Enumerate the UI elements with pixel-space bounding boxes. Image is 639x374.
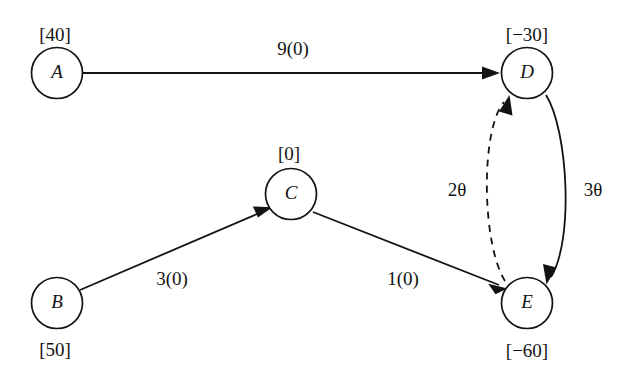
node-c-label: C bbox=[285, 182, 298, 203]
edge-d-to-e: 3θ bbox=[543, 95, 602, 285]
edge-d-to-e-arrowhead bbox=[543, 264, 557, 285]
node-a-label: A bbox=[49, 61, 63, 82]
edge-e-to-d-curve bbox=[487, 102, 505, 281]
node-c[interactable]: C [0] bbox=[266, 143, 317, 220]
edge-d-to-e-curve bbox=[546, 95, 566, 277]
edge-a-to-d: 9(0) bbox=[83, 38, 500, 80]
node-b-label: B bbox=[51, 291, 63, 312]
edge-e-to-d: 2θ bbox=[448, 95, 513, 281]
node-d[interactable]: D [−30] bbox=[502, 24, 553, 99]
edge-e-to-d-label: 2θ bbox=[448, 179, 467, 200]
node-a-supply-label: [40] bbox=[39, 24, 71, 45]
edge-a-to-d-arrowhead bbox=[482, 67, 500, 80]
edge-d-to-e-label: 3θ bbox=[584, 179, 603, 200]
edge-c-to-e: 1(0) bbox=[313, 212, 508, 294]
network-graph-canvas: 9(0) 3(0) 1(0) 3θ 2θ bbox=[0, 0, 639, 374]
edge-a-to-d-label: 9(0) bbox=[277, 38, 309, 60]
node-b-supply-label: [50] bbox=[39, 339, 71, 360]
edge-b-to-c: 3(0) bbox=[80, 207, 273, 291]
node-e-label: E bbox=[520, 291, 533, 312]
node-d-label: D bbox=[519, 61, 534, 82]
network-flow-diagram: 9(0) 3(0) 1(0) 3θ 2θ bbox=[0, 0, 639, 374]
node-d-supply-label: [−30] bbox=[506, 24, 548, 45]
node-a[interactable]: A [40] bbox=[32, 24, 83, 99]
node-e-supply-label: [−60] bbox=[506, 340, 548, 361]
node-c-supply-label: [0] bbox=[278, 143, 300, 164]
edge-b-to-c-label: 3(0) bbox=[156, 268, 188, 290]
edge-c-to-e-label: 1(0) bbox=[387, 268, 419, 290]
node-b[interactable]: B [50] bbox=[32, 278, 83, 361]
edge-e-to-d-arrowhead bbox=[499, 95, 513, 116]
node-e[interactable]: E [−60] bbox=[502, 278, 553, 362]
